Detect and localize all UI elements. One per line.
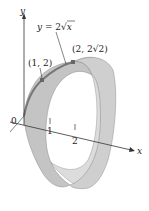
point-label-2-2sqrt2: (2, 2√2) — [72, 44, 108, 54]
curve-equation-eq: = 2 — [42, 22, 61, 32]
point-label-1-2: (1, 2) — [28, 58, 52, 68]
x-axis-arrow-icon — [129, 147, 135, 152]
y-axis-label: y — [19, 6, 26, 16]
x-axis-label: x — [137, 146, 142, 156]
leader-curve-label — [56, 32, 66, 64]
tick-label-2: 2 — [72, 136, 78, 146]
point-2-2sqrt2 — [71, 60, 75, 64]
surface-of-revolution-diagram: y x 0 1 2 y = 2√x (1, 2) (2, 2√2) — [0, 0, 149, 211]
curve-equation-label: y = 2√x — [36, 22, 72, 32]
curve-equation-var: x — [67, 22, 72, 32]
point-1-2 — [40, 78, 44, 82]
origin-label: 0 — [11, 116, 17, 126]
tick-label-1: 1 — [47, 126, 53, 136]
